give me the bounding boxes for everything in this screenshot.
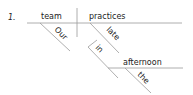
prep-object-word: afternoon bbox=[123, 58, 162, 67]
sentence-diagram: 1. team practices Our late in afternoon … bbox=[0, 0, 193, 95]
verb-word: practices bbox=[89, 12, 126, 21]
object-modifier-word: the bbox=[136, 70, 152, 86]
preposition-word: in bbox=[94, 43, 106, 55]
subject-modifier-word: Our bbox=[53, 25, 70, 42]
subject-word: team bbox=[41, 12, 62, 21]
item-number: 1. bbox=[8, 13, 16, 22]
in-preposition-line bbox=[88, 47, 118, 78]
adverb-word: late bbox=[105, 25, 122, 42]
in-connector-line bbox=[88, 40, 97, 47]
